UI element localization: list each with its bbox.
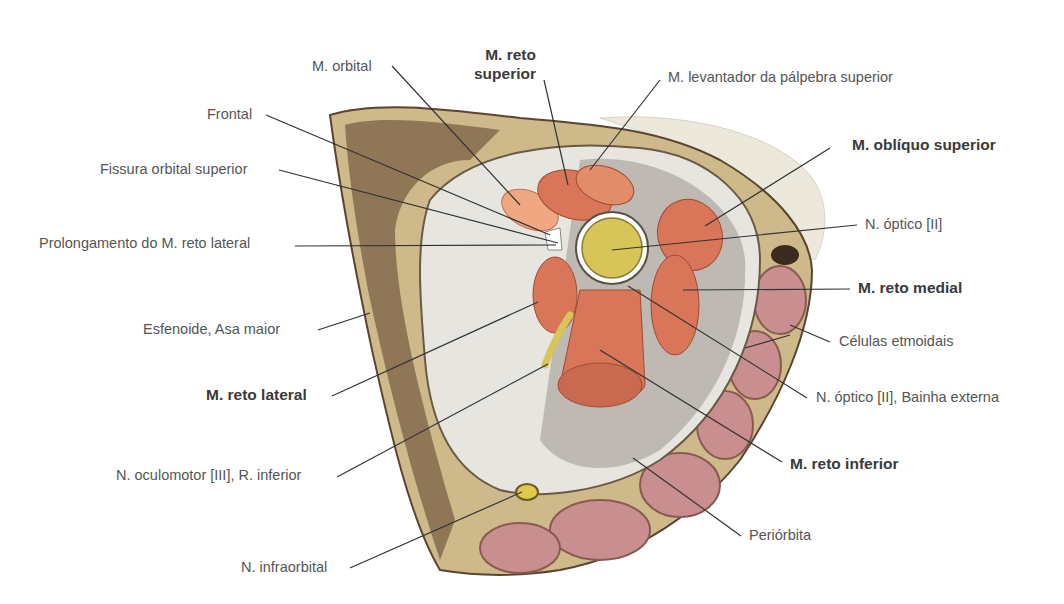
label-m-orbital: M. orbital (312, 58, 372, 75)
label-m-reto-lateral: M. reto lateral (206, 386, 307, 403)
label-m-reto-superior-line2: superior (462, 65, 536, 82)
label-m-reto-medial: M. reto medial (858, 279, 962, 296)
muscle-reto-inferior-cut (558, 363, 642, 407)
label-prolongamento: Prolongamento do M. reto lateral (39, 235, 250, 252)
label-esfenoide: Esfenoide, Asa maior (143, 321, 280, 338)
anatomy-illustration (0, 0, 1064, 604)
label-fissura-orbital-superior: Fissura orbital superior (100, 161, 247, 178)
label-m-reto-inferior: M. reto inferior (790, 455, 899, 472)
label-m-levantador: M. levantador da pálpebra superior (668, 69, 893, 86)
label-m-reto-superior-line1: M. reto (472, 46, 536, 63)
n-infraorbital (516, 484, 538, 500)
fissura-orbital-superior (545, 228, 562, 250)
optic-canal (771, 245, 799, 265)
label-n-infraorbital: N. infraorbital (241, 559, 327, 576)
label-n-optico: N. óptico [II] (865, 216, 942, 233)
muscle-reto-lateral (533, 257, 577, 333)
label-n-oculomotor: N. oculomotor [III], R. inferior (116, 467, 301, 484)
label-n-optico-bainha: N. óptico [II], Bainha externa (816, 389, 999, 406)
label-m-obliquo-superior: M. oblíquo superior (852, 136, 996, 153)
orbit-diagram: M. orbital M. reto superior M. levantado… (0, 0, 1064, 604)
label-periorbita: Periórbita (749, 527, 811, 544)
label-frontal: Frontal (207, 106, 252, 123)
label-celulas-etmoidais: Células etmoidais (839, 333, 953, 350)
